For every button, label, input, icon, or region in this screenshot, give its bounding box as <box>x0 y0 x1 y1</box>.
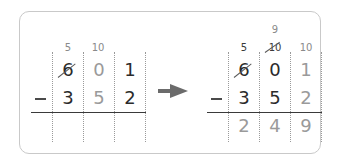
borrow-mark: 10 <box>295 43 317 53</box>
column-divider <box>114 52 115 142</box>
minus-sign <box>35 98 46 100</box>
column-divider <box>83 52 84 142</box>
sum-line <box>207 112 322 113</box>
minuend-digit: 1 <box>295 61 317 79</box>
result-digit: 2 <box>233 117 255 135</box>
column-divider <box>321 52 322 142</box>
subtrahend-digit: 2 <box>119 89 141 107</box>
subtrahend-digit: 3 <box>233 89 255 107</box>
subtrahend-digit: 5 <box>264 89 286 107</box>
borrow-mark: 5 <box>57 43 79 53</box>
subtrahend-digit: 2 <box>295 89 317 107</box>
column-divider <box>290 52 291 142</box>
column-divider <box>228 52 229 142</box>
subtrahend-digit: 5 <box>88 89 110 107</box>
borrow-mark: 5 <box>233 43 255 53</box>
borrow-mark: 10 <box>87 43 109 53</box>
borrow-mark-top: 9 <box>264 25 286 35</box>
minuend-digit: 1 <box>119 61 141 79</box>
right-arrow-icon <box>158 84 188 98</box>
minuend-digit: 0 <box>88 61 110 79</box>
column-divider <box>145 52 146 142</box>
result-digit: 4 <box>264 117 286 135</box>
column-divider <box>259 52 260 142</box>
sum-line <box>31 112 146 113</box>
minuend-digit: 0 <box>264 61 286 79</box>
minus-sign <box>211 98 222 100</box>
result-digit: 9 <box>295 117 317 135</box>
column-divider <box>52 52 53 142</box>
subtrahend-digit: 3 <box>57 89 79 107</box>
